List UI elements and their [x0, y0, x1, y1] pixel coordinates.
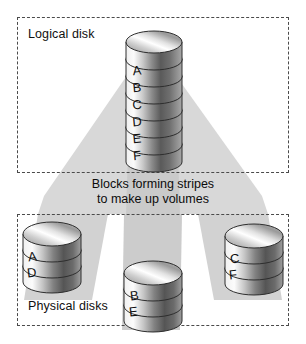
physical-disk-2	[121, 259, 185, 335]
logical-disk-stack	[124, 28, 184, 176]
physical-disks-label: Physical disks	[28, 299, 108, 313]
stripe-caption: Blocks forming stripes to make up volume…	[0, 177, 306, 207]
stripe-caption-line-2: to make up volumes	[0, 192, 306, 207]
stripe-caption-line-1: Blocks forming stripes	[0, 177, 306, 192]
raid-striping-diagram: Logical disk A B C D E F Blocks forming	[0, 0, 306, 344]
logical-disk-label: Logical disk	[28, 27, 95, 41]
physical-disk-1	[20, 220, 84, 296]
physical-disk-3	[222, 222, 286, 298]
